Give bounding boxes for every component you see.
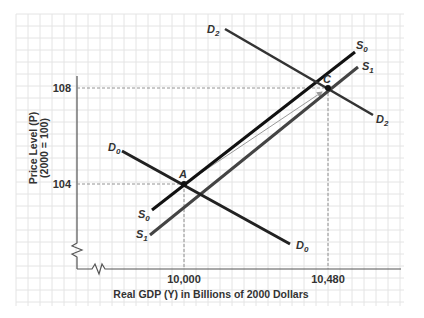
point-a <box>181 181 187 187</box>
x-tick-10480: 10,480 <box>311 273 345 285</box>
point-c-label: C <box>323 73 332 85</box>
y-tick-108: 108 <box>53 82 71 94</box>
y-axis-subtitle: (2000 = 100) <box>38 118 50 178</box>
x-axis-title: Real GDP (Y) in Billions of 2000 Dollars <box>113 288 308 300</box>
curve-s1 <box>150 67 358 235</box>
point-c <box>325 85 331 91</box>
y-tick-104: 104 <box>53 178 72 190</box>
aggregate-supply-demand-chart: A C D0 D0 D2 D2 S0 S0 S1 S1 108 104 10,0… <box>0 0 424 318</box>
x-tick-10000: 10,000 <box>167 273 201 285</box>
label-d0-right: D0 <box>296 239 309 254</box>
label-s0-top: S0 <box>356 39 368 54</box>
point-a-label: A <box>178 168 187 180</box>
y-axis <box>72 76 82 269</box>
label-d2-right: D2 <box>376 113 389 128</box>
label-d2-top: D2 <box>207 23 220 38</box>
label-d0-left: D0 <box>108 141 121 156</box>
